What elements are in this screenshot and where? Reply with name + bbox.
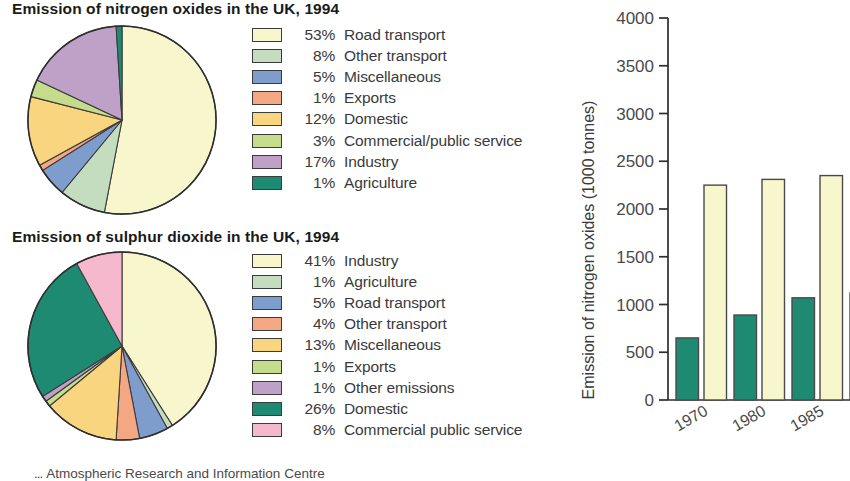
legend-swatch-icon	[252, 360, 282, 374]
source-mark: ...	[34, 466, 42, 481]
bar	[792, 298, 815, 400]
legend-label: Road transport	[344, 294, 445, 312]
nitrogen-oxides-pie-block: Emission of nitrogen oxides in the UK, 1…	[0, 0, 339, 214]
legend-swatch-icon	[252, 317, 282, 331]
legend-item: 13%Miscellaneous	[252, 335, 522, 356]
legend-item: 41%Industry	[252, 250, 522, 271]
legend-swatch-icon	[252, 296, 282, 310]
legend-label: Industry	[344, 153, 398, 171]
y-tick-label: 1500	[616, 248, 654, 267]
bar	[734, 315, 757, 400]
legend-swatch-icon	[252, 49, 282, 63]
legend-percent: 53%	[293, 26, 335, 44]
legend-label: Agriculture	[344, 174, 417, 192]
legend-label: Domestic	[344, 110, 408, 128]
so2-pie-chart	[24, 248, 220, 444]
legend-item: 8%Other transport	[252, 45, 522, 66]
legend-percent: 17%	[293, 153, 335, 171]
legend-item: 1%Agriculture	[252, 271, 522, 292]
legend-label: Exports	[344, 358, 396, 376]
page-title-so2: Emission of sulphur dioxide in the UK, 1…	[0, 228, 339, 246]
legend-item: 1%Exports	[252, 88, 522, 109]
y-tick-label: 2500	[616, 152, 654, 171]
legend-swatch-icon	[252, 176, 282, 190]
so2-legend: 41%Industry1%Agriculture5%Road transport…	[252, 250, 522, 441]
y-axis-title: Emission of nitrogen oxides (1000 tonnes…	[580, 101, 597, 400]
legend-swatch-icon	[252, 254, 282, 268]
legend-percent: 13%	[293, 336, 335, 354]
legend-percent: 4%	[293, 315, 335, 333]
legend-label: Other emissions	[344, 379, 454, 397]
figure-page: Emission of nitrogen oxides in the UK, 1…	[0, 0, 850, 481]
legend-label: Road transport	[344, 26, 445, 44]
legend-label: Other transport	[344, 47, 447, 65]
legend-swatch-icon	[252, 134, 282, 148]
legend-percent: 1%	[293, 174, 335, 192]
y-tick-label: 3000	[616, 105, 654, 124]
nitrogen-oxides-bar-chart: 40003500300025002000150010005000Emission…	[560, 0, 850, 481]
legend-item: 8%Commercial public service	[252, 420, 522, 441]
bar	[762, 179, 785, 400]
legend-swatch-icon	[252, 91, 282, 105]
legend-swatch-icon	[252, 423, 282, 437]
legend-swatch-icon	[252, 28, 282, 42]
legend-swatch-icon	[252, 70, 282, 84]
legend-percent: 5%	[293, 294, 335, 312]
legend-item: 5%Miscellaneous	[252, 66, 522, 87]
legend-percent: 8%	[293, 421, 335, 439]
source-text: Atmospheric Research and Information Cen…	[46, 466, 324, 481]
y-tick-label: 2000	[616, 200, 654, 219]
legend-item: 5%Road transport	[252, 292, 522, 313]
x-tick-label: 1985	[787, 402, 826, 435]
legend-percent: 1%	[293, 358, 335, 376]
x-tick-label: 1970	[671, 402, 710, 435]
legend-percent: 1%	[293, 379, 335, 397]
bar	[704, 185, 727, 400]
so2-pie-row: 41%Industry1%Agriculture5%Road transport…	[0, 246, 339, 442]
legend-percent: 12%	[293, 110, 335, 128]
source-note: ...Atmospheric Research and Information …	[34, 466, 325, 481]
y-tick-label: 4000	[616, 9, 654, 28]
legend-label: Commercial public service	[344, 421, 522, 439]
legend-item: 4%Other transport	[252, 314, 522, 335]
legend-label: Domestic	[344, 400, 408, 418]
bar	[676, 338, 699, 400]
x-tick-label: 1980	[729, 402, 768, 435]
bar	[820, 176, 843, 400]
legend-percent: 26%	[293, 400, 335, 418]
y-tick-label: 500	[626, 343, 654, 362]
legend-item: 3%Commercial/public service	[252, 130, 522, 151]
legend-percent: 8%	[293, 47, 335, 65]
legend-percent: 5%	[293, 68, 335, 86]
sulphur-dioxide-pie-block: Emission of sulphur dioxide in the UK, 1…	[0, 228, 339, 442]
legend-percent: 1%	[293, 273, 335, 291]
legend-label: Miscellaneous	[344, 336, 441, 354]
legend-swatch-icon	[252, 381, 282, 395]
nox-pie-row: 53%Road transport8%Other transport5%Misc…	[0, 18, 339, 214]
legend-percent: 3%	[293, 132, 335, 150]
nox-legend: 53%Road transport8%Other transport5%Misc…	[252, 24, 522, 194]
legend-item: 1%Exports	[252, 356, 522, 377]
legend-item: 17%Industry	[252, 151, 522, 172]
legend-item: 12%Domestic	[252, 109, 522, 130]
legend-label: Other transport	[344, 315, 447, 333]
legend-swatch-icon	[252, 155, 282, 169]
legend-swatch-icon	[252, 402, 282, 416]
legend-item: 26%Domestic	[252, 398, 522, 419]
nox-pie-chart	[24, 22, 220, 218]
legend-item: 1%Agriculture	[252, 172, 522, 193]
legend-percent: 1%	[293, 89, 335, 107]
legend-swatch-icon	[252, 112, 282, 126]
legend-percent: 41%	[293, 252, 335, 270]
y-tick-label: 1000	[616, 296, 654, 315]
y-tick-label: 3500	[616, 57, 654, 76]
legend-label: Commercial/public service	[344, 132, 522, 150]
legend-item: 1%Other emissions	[252, 377, 522, 398]
legend-label: Industry	[344, 252, 398, 270]
legend-swatch-icon	[252, 275, 282, 289]
legend-label: Exports	[344, 89, 396, 107]
page-title-nox: Emission of nitrogen oxides in the UK, 1…	[0, 0, 339, 18]
legend-item: 53%Road transport	[252, 24, 522, 45]
y-tick-label: 0	[645, 391, 654, 410]
legend-label: Miscellaneous	[344, 68, 441, 86]
